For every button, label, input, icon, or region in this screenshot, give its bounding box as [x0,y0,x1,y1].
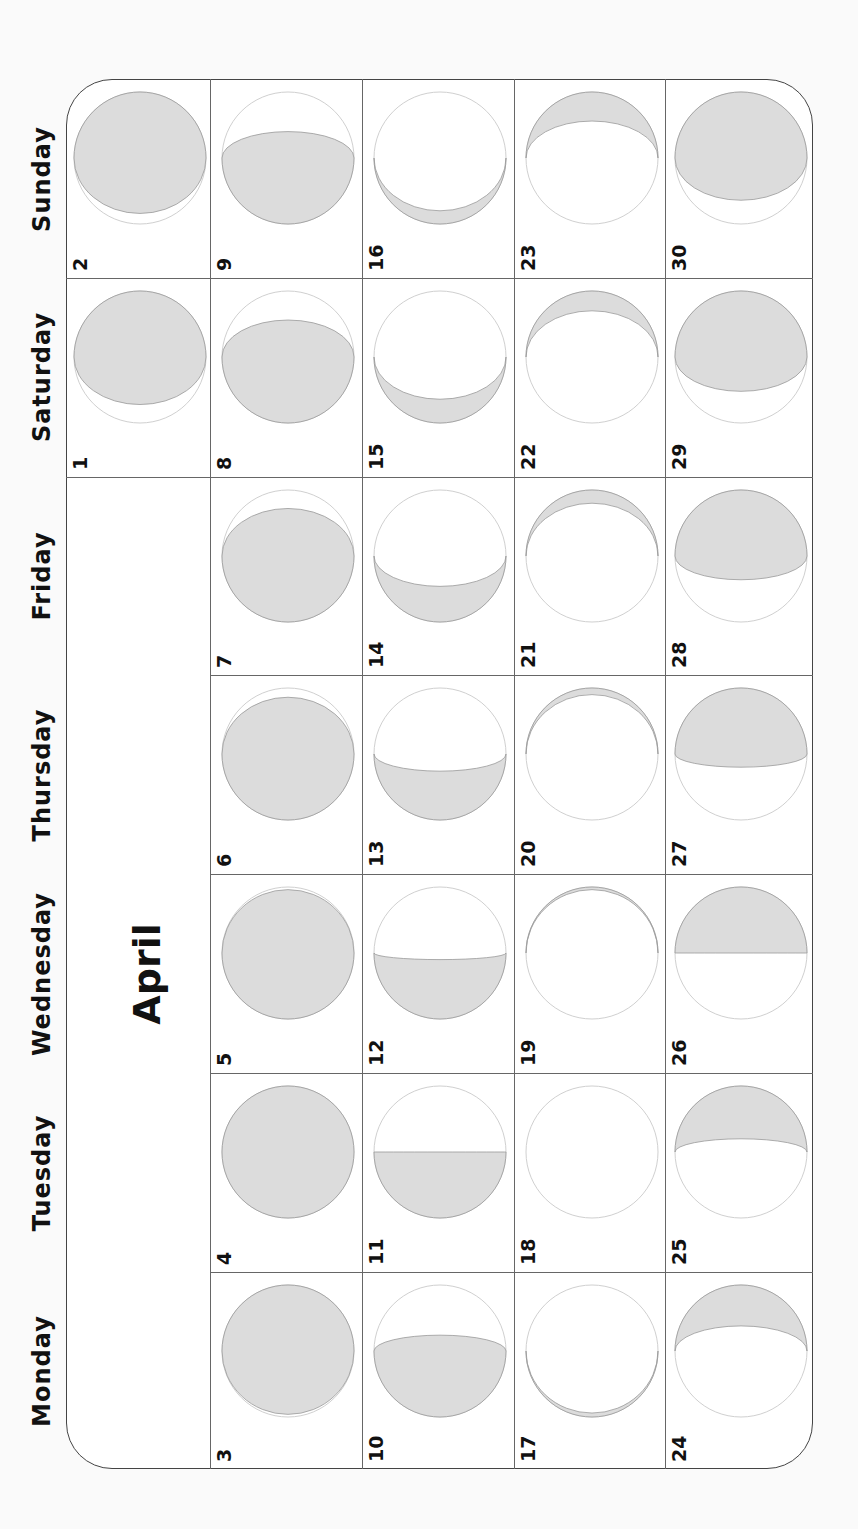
day-number: 19 [517,1026,539,1066]
day-number: 28 [668,628,690,668]
day-cell-11: 11 [362,1073,514,1272]
day-cell-16: 16 [362,79,514,278]
day-cell-17: 17 [514,1272,665,1469]
weekday-label-monday: Monday [27,1271,57,1471]
moon-phase-icon [219,685,357,827]
moon-phase-icon [219,1282,357,1424]
moon-phase-icon [672,1083,810,1225]
day-number: 22 [517,430,539,470]
moon-phase-icon [371,884,509,1026]
moon-phase-icon [219,1083,357,1225]
moon-phase-icon [672,288,810,430]
day-cell-6: 6 [210,675,362,874]
day-number: 20 [517,827,539,867]
day-cell-23: 23 [514,79,665,278]
moon-phase-icon [672,1282,810,1424]
day-number: 21 [517,628,539,668]
moon-phase-icon [371,685,509,827]
day-number: 2 [69,231,91,271]
day-cell-21: 21 [514,477,665,675]
moon-phase-icon [672,89,810,231]
day-cell-28: 28 [665,477,813,675]
day-cell-25: 25 [665,1073,813,1272]
weekday-label-thursday: Thursday [27,675,57,875]
moon-phase-icon [523,1083,661,1225]
day-cell-14: 14 [362,477,514,675]
day-cell-29: 29 [665,278,813,477]
moon-phase-icon [672,884,810,1026]
day-number: 14 [365,628,387,668]
moon-phase-icon [523,685,661,827]
day-cell-9: 9 [210,79,362,278]
day-number: 16 [365,231,387,271]
day-cell-4: 4 [210,1073,362,1272]
day-number: 24 [668,1422,690,1462]
weekday-label-tuesday: Tuesday [27,1073,57,1273]
moon-phase-icon [219,89,357,231]
day-number: 10 [365,1422,387,1462]
day-cell-8: 8 [210,278,362,477]
day-cell-19: 19 [514,874,665,1073]
moon-phase-icon [71,288,209,430]
moon-phase-icon [672,487,810,629]
moon-phase-icon [219,288,357,430]
day-cell-12: 12 [362,874,514,1073]
day-number: 4 [213,1225,235,1265]
day-number: 8 [213,430,235,470]
moon-phase-icon [523,884,661,1026]
moon-phase-icon [523,487,661,629]
moon-phase-icon [672,685,810,827]
day-number: 3 [213,1422,235,1462]
weekday-label-friday: Friday [27,476,57,676]
day-cell-13: 13 [362,675,514,874]
weekday-label-wednesday: Wednesday [27,874,57,1074]
day-number: 7 [213,628,235,668]
day-cell-2: 2 [66,79,210,278]
day-number: 26 [668,1026,690,1066]
weekday-label-sunday: Sunday [27,79,57,279]
moon-phase-icon [219,884,357,1026]
day-cell-3: 3 [210,1272,362,1469]
day-number: 1 [69,430,91,470]
moon-phase-icon [371,89,509,231]
day-cell-24: 24 [665,1272,813,1469]
moon-phase-icon [219,487,357,629]
day-number: 17 [517,1422,539,1462]
moon-phase-icon [371,288,509,430]
day-cell-15: 15 [362,278,514,477]
moon-phase-icon [371,1282,509,1424]
moon-phase-icon [523,288,661,430]
day-number: 12 [365,1026,387,1066]
moon-phase-icon [371,487,509,629]
day-number: 5 [213,1026,235,1066]
day-cell-22: 22 [514,278,665,477]
day-number: 15 [365,430,387,470]
moon-phase-icon [523,1282,661,1424]
moon-phase-icon [371,1083,509,1225]
day-cell-1: 1 [66,278,210,477]
day-cell-5: 5 [210,874,362,1073]
weekday-label-saturday: Saturday [27,277,57,477]
moon-phase-icon [71,89,209,231]
day-cell-27: 27 [665,675,813,874]
day-number: 25 [668,1225,690,1265]
day-number: 23 [517,231,539,271]
day-cell-26: 26 [665,874,813,1073]
day-number: 11 [365,1225,387,1265]
day-cell-10: 10 [362,1272,514,1469]
day-cell-18: 18 [514,1073,665,1272]
day-number: 30 [668,231,690,271]
day-cell-7: 7 [210,477,362,675]
day-cell-30: 30 [665,79,813,278]
day-number: 13 [365,827,387,867]
day-number: 18 [517,1225,539,1265]
day-cell-20: 20 [514,675,665,874]
day-number: 27 [668,827,690,867]
moon-phase-icon [523,89,661,231]
day-number: 29 [668,430,690,470]
day-number: 9 [213,231,235,271]
day-number: 6 [213,827,235,867]
month-title: April [125,884,169,1064]
